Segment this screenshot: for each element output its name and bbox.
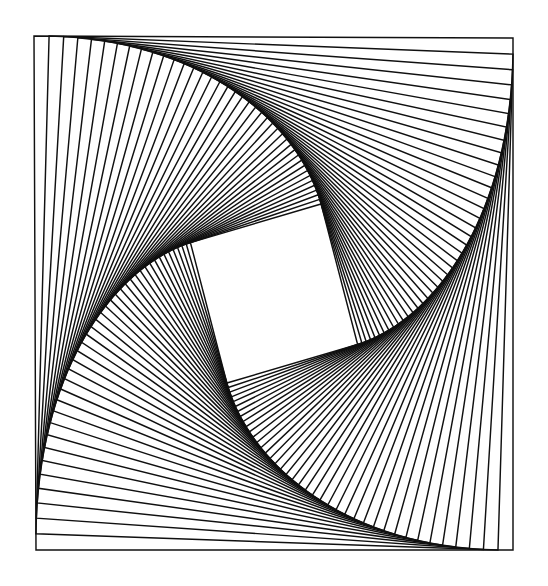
whirling-squares-svg <box>0 0 548 586</box>
figure-canvas <box>0 0 548 586</box>
